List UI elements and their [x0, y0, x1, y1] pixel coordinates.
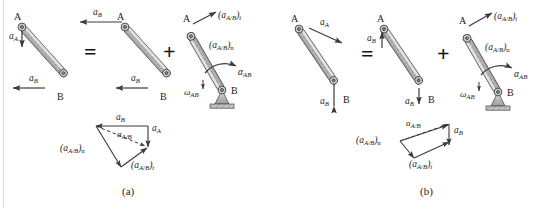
accel-b-bottom-label-bar2-a: aB: [131, 74, 140, 84]
panel-b-vector-polygon: [400, 124, 449, 158]
caption-b: (b): [420, 186, 433, 197]
panel-b-bar-total: [295, 25, 342, 106]
poly-a-tangential-label: (aA/B)t: [131, 161, 154, 171]
figure-canvas: [0, 0, 549, 208]
poly-b-tangential-arrow: [414, 142, 449, 158]
accel-rel-tangential-label-a: (aA/B)t: [218, 11, 241, 21]
poly-a-aa-label: aA: [152, 124, 161, 134]
point-b-label-bar2-a: B: [160, 92, 167, 102]
accel-rel-tangential-label-b: (aA/B)t: [494, 12, 517, 22]
omega-ab-label-a: ωAB: [184, 88, 199, 97]
poly-b-normal-label: (aA/B)n: [356, 136, 381, 146]
alpha-ab-label-b: αAB: [514, 70, 527, 80]
poly-a-normal-label: (aA/B)n: [60, 144, 85, 154]
equals-operator-b: =: [361, 41, 374, 67]
poly-b-tangential-label: (aA/B)t: [409, 160, 432, 170]
point-b-label-bar3-a: B: [231, 86, 238, 96]
point-a-label-bar3-b: A: [459, 16, 466, 26]
accel-rel-normal-label-a: (aA/B)n: [209, 41, 234, 51]
accel-b-label-bar1-b: aB: [320, 97, 329, 107]
plus-operator-a: +: [163, 39, 176, 65]
point-b-label-bar2-b: B: [428, 95, 435, 105]
poly-a-rel-label: aA/B: [117, 130, 132, 139]
accel-b-bottom-label-bar2-b: aB: [405, 97, 414, 107]
poly-a-ab-label: aB: [116, 113, 125, 123]
accel-a-label-bar1-a: aA: [9, 32, 18, 42]
figure-root: = + = + A B aA aB A B aB aB A B (aA/B)t …: [0, 0, 549, 208]
accel-rel-normal-label-b: (aA/B)n: [485, 43, 510, 53]
accel-rel-tangential-arrow-panel-a: [193, 12, 216, 24]
panel-a-bar-total: [13, 23, 69, 88]
accel-b-top-label-bar2-b: aB: [367, 34, 376, 44]
point-b-label-bar1-a: B: [57, 92, 64, 102]
alpha-ab-label-a: αAB: [238, 68, 251, 78]
accel-b-top-label-bar2-a: aB: [93, 8, 102, 18]
poly-b-rel-label: aA/B: [406, 119, 421, 128]
omega-ab-label-b: ωAB: [460, 90, 475, 99]
poly-b-ab-label: aB: [454, 126, 463, 136]
plus-operator-b: +: [437, 41, 450, 67]
accel-rel-tangential-arrow-panel-b: [469, 13, 492, 26]
point-a-label-bar1-a: A: [14, 12, 21, 22]
poly-b-normal-arrow: [400, 141, 414, 158]
equals-operator-a: =: [84, 39, 97, 65]
point-b-label-bar3-b: B: [507, 88, 514, 98]
panel-b-bar-translation: [380, 25, 424, 104]
point-a-label-bar1-b: A: [291, 14, 298, 24]
point-a-label-bar2-b: A: [377, 14, 384, 24]
accel-a-arrow-panel-b: [309, 28, 342, 43]
accel-a-label-bar1-b: aA: [320, 18, 329, 28]
point-a-label-bar3-a: A: [183, 14, 190, 24]
point-b-label-bar1-b: B: [343, 95, 350, 105]
accel-b-label-bar1-a: aB: [29, 74, 38, 84]
point-a-label-bar2-a: A: [117, 12, 124, 22]
caption-a: (a): [122, 186, 134, 197]
